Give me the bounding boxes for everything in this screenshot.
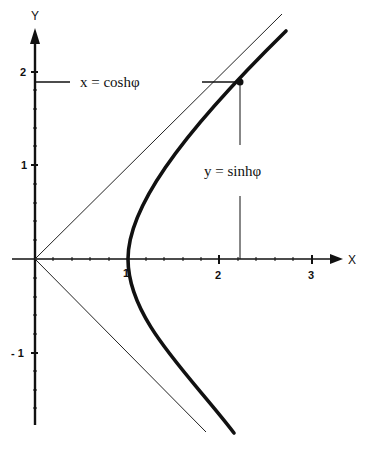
y-tick-label-1: 1	[21, 159, 27, 171]
x-tick-label-3: 3	[308, 269, 314, 281]
y-axis-label: Y	[31, 9, 39, 23]
x-axis-label: X	[348, 253, 356, 267]
y-axis-arrow-icon	[30, 28, 40, 44]
hyperbola-diagram: 1 2 3 2 1 - 1 X Y x = coshφ y = sinhφ	[0, 0, 370, 456]
y-tick-label-neg1: - 1	[11, 347, 24, 359]
y-tick-label-2: 2	[20, 66, 26, 78]
x-param-label: x = coshφ	[80, 74, 140, 90]
x-tick-label-2: 2	[215, 269, 221, 281]
asymptote-y-eq-neg-x	[35, 259, 206, 432]
x-axis-arrow-icon	[330, 254, 343, 264]
point-marker	[237, 79, 244, 86]
y-param-label: y = sinhφ	[204, 163, 261, 179]
asymptote-y-eq-x	[35, 14, 282, 259]
